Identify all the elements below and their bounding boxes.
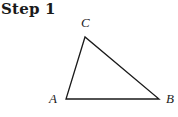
vertex-label-a: A: [48, 91, 57, 106]
triangle-diagram: C A B: [0, 0, 178, 117]
vertex-label-c: C: [81, 15, 90, 30]
triangle-abc: [66, 37, 159, 99]
vertex-label-b: B: [166, 91, 174, 106]
